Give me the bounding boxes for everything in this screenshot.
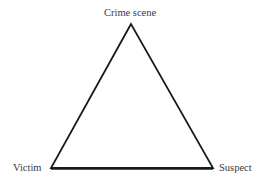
vertex-label-crime-scene: Crime scene (104, 8, 156, 19)
triangle-shape (0, 0, 271, 185)
vertex-label-victim: Victim (13, 163, 42, 174)
vertex-label-suspect: Suspect (219, 163, 252, 174)
crime-triangle-diagram: Crime scene Victim Suspect (0, 0, 271, 185)
